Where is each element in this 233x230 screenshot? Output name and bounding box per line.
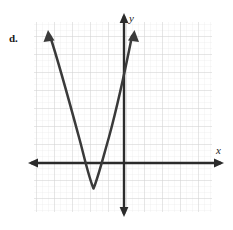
x-axis-label: x (215, 144, 221, 156)
coordinate-graph: y x (0, 0, 233, 230)
y-axis-top-arrowhead (120, 13, 129, 23)
x-axis-right-arrowhead (214, 159, 224, 168)
figure-screenshot: d. y x (0, 0, 233, 230)
x-axis-left-arrowhead (28, 159, 38, 168)
y-axis-label: y (128, 12, 134, 24)
